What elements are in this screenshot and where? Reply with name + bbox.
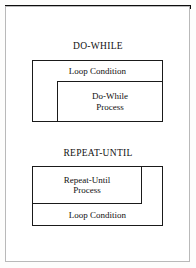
do-while-loop-condition-box: Loop Condition [32,60,163,82]
section-title-do-while: DO-WHILE [0,41,196,51]
repeat-until-loop-condition-box: Loop Condition [32,204,163,226]
do-while-loop-condition-label: Loop Condition [69,66,126,76]
do-while-process-label-line1: Do-While [92,91,128,102]
repeat-until-process-box: Repeat-Until Process [32,166,142,204]
do-while-process-label: Do-While Process [92,91,128,112]
repeat-until-process-label-line1: Repeat-Until [64,175,111,186]
figure-page: DO-WHILE Loop Condition Do-While Process… [0,0,196,268]
repeat-until-process-label-line2: Process [64,185,111,196]
repeat-until-process-label: Repeat-Until Process [64,175,111,196]
repeat-until-loop-condition-label: Loop Condition [69,210,126,220]
do-while-process-label-line2: Process [92,102,128,113]
section-title-repeat-until: REPEAT-UNTIL [0,148,196,158]
do-while-process-box: Do-While Process [57,81,163,122]
